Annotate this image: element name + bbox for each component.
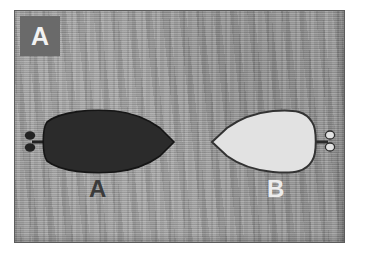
panel-label-badge: A <box>20 16 60 56</box>
vessel-b-propeller-blade-lower <box>325 143 334 151</box>
vessel-b-hull <box>212 110 316 172</box>
figure-panel: A B A <box>14 10 345 243</box>
vessel-a-group <box>25 110 174 172</box>
vessel-a-label: A <box>89 177 106 201</box>
screenshot-root: A B A <box>0 0 369 256</box>
panel-label-text: A <box>31 24 49 49</box>
vessel-diagram <box>15 11 345 243</box>
vessel-b-label: B <box>267 177 284 201</box>
vessel-a-hull <box>43 110 174 172</box>
vessel-b-group <box>212 110 335 172</box>
vessel-a-propeller-blade-upper <box>25 131 35 139</box>
vessel-a-propeller-blade-lower <box>25 143 35 151</box>
vessel-b-propeller-blade-upper <box>325 131 334 139</box>
